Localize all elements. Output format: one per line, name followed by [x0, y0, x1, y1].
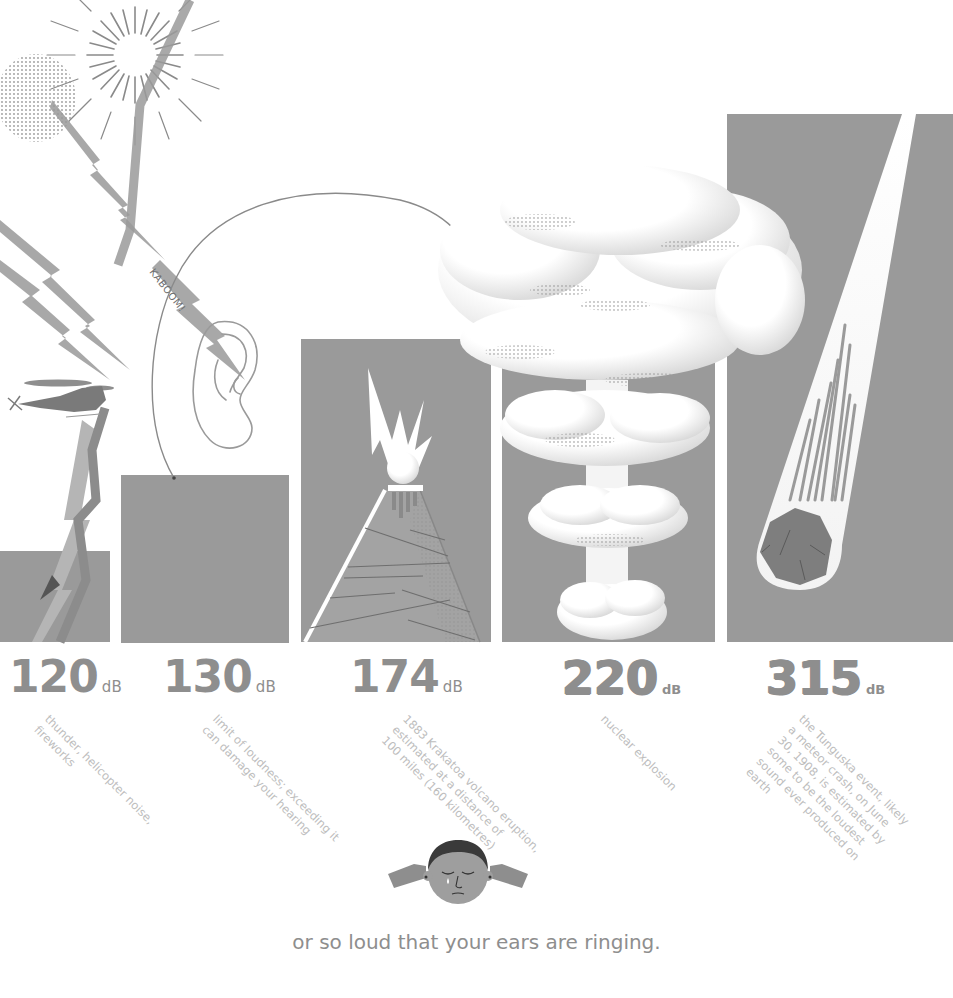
- value-number: 120: [9, 651, 98, 702]
- kaboom-label: KABOOM!: [147, 266, 188, 314]
- value-number: 220: [562, 651, 658, 705]
- firework-dots-icon: [0, 54, 76, 142]
- value-unit: dB: [256, 678, 276, 696]
- value-unit: dB: [662, 682, 681, 697]
- value-number: 130: [163, 651, 252, 702]
- description-315: the Tunguska event, likely a meteor cras…: [742, 712, 912, 882]
- caption: or so loud that your ears are ringing.: [0, 930, 953, 954]
- value-number: 174: [350, 651, 439, 702]
- bar-120db: [0, 551, 110, 642]
- value-label-315: 315dB: [766, 655, 885, 701]
- firework-burst-icon: [47, 0, 223, 145]
- value-label-130: 130dB: [163, 655, 276, 699]
- value-unit: dB: [102, 678, 122, 696]
- bar-130db: [121, 475, 289, 643]
- value-label-120: 120dB: [9, 655, 122, 699]
- value-label-220: 220dB: [562, 655, 681, 701]
- helicopter-icon: [8, 380, 114, 418]
- loudness-infographic: KABOOM!: [0, 0, 953, 998]
- covered-ears-face-icon: [386, 836, 530, 906]
- value-unit: dB: [866, 682, 885, 697]
- value-number: 315: [766, 651, 862, 705]
- lightning-bolt-icon: [0, 100, 245, 380]
- firework-trail-icon: [118, 0, 190, 265]
- description-130: limit of loudness; exceeding it can dama…: [199, 712, 342, 855]
- ear-icon: [193, 322, 257, 448]
- value-unit: dB: [443, 678, 463, 696]
- description-120: thunder, helicopter noise, fireworks: [31, 712, 157, 838]
- bar-174db: [301, 339, 491, 642]
- description-220: nuclear explosion: [597, 712, 679, 794]
- value-label-174: 174dB: [350, 655, 463, 699]
- bar-220db: [502, 340, 715, 642]
- bar-315db: [727, 114, 953, 642]
